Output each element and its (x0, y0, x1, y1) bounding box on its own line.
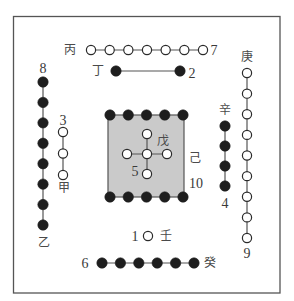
yang-dot (180, 45, 189, 54)
yang-dot (124, 45, 133, 54)
stem-label-ji: 己 (189, 151, 201, 165)
stem-label-jia: 甲 (58, 181, 70, 195)
yang-dot (142, 129, 151, 138)
yang-dot (198, 45, 207, 54)
yang-dot (242, 213, 251, 222)
number-label-5: 5 (132, 164, 139, 179)
number-label-2: 2 (189, 66, 196, 81)
yin-dot (141, 192, 151, 202)
yin-dot (152, 258, 162, 268)
yin-dot (115, 258, 125, 268)
yin-dot (160, 110, 170, 120)
yang-dot (162, 149, 171, 158)
yin-dot (170, 258, 180, 268)
yin-dot (123, 192, 133, 202)
yin-dot (189, 258, 199, 268)
stem-label-xin: 辛 (219, 103, 231, 117)
yin-dot (38, 118, 48, 128)
yang-dot (86, 45, 95, 54)
yin-dot (141, 110, 151, 120)
yin-dot (105, 192, 115, 202)
yang-dot (105, 45, 114, 54)
yang-dot (242, 192, 251, 201)
yin-dot (220, 181, 230, 191)
yang-dot (242, 130, 251, 139)
yang-dot (58, 149, 67, 158)
yin-dot (220, 161, 230, 171)
yang-dot (242, 233, 251, 242)
yin-dot (134, 258, 144, 268)
number-label-3: 3 (60, 113, 67, 128)
yang-dot (142, 149, 151, 158)
yin-dot (160, 192, 170, 202)
yang-dot (58, 170, 67, 179)
yin-dot (38, 77, 48, 87)
yin-dot (38, 159, 48, 169)
number-label-9: 9 (244, 246, 251, 261)
yang-dot (242, 89, 251, 98)
stem-label-ren: 壬 (160, 229, 172, 243)
yin-dot (38, 97, 48, 107)
yin-dot (38, 138, 48, 148)
number-label-7: 7 (211, 43, 218, 58)
yang-dot (242, 68, 251, 77)
yin-dot (38, 179, 48, 189)
hetu-diagram: 丙 7 丁 2 8 乙 3 甲 庚 9 辛 4 1 壬 6 癸 戊 5 己 10 (0, 0, 294, 301)
yang-dot (242, 172, 251, 181)
number-label-6: 6 (82, 256, 89, 271)
yang-dot (142, 169, 151, 178)
dot-group-left-inner (58, 127, 67, 179)
yin-dot (105, 110, 115, 120)
yin-dot (111, 66, 121, 76)
stem-label-yi: 乙 (38, 236, 50, 250)
yin-dot (220, 121, 230, 131)
yin-dot (123, 110, 133, 120)
yin-dot (178, 110, 188, 120)
yin-dot (38, 199, 48, 209)
number-label-10: 10 (189, 176, 203, 191)
number-label-4: 4 (222, 196, 229, 211)
number-label-1: 1 (132, 229, 139, 244)
stem-label-ding: 丁 (92, 64, 104, 78)
stem-label-gui: 癸 (204, 256, 216, 270)
dot-group-right-outer (242, 68, 251, 242)
yin-dot (178, 192, 188, 202)
yang-dot (242, 151, 251, 160)
number-label-8: 8 (40, 61, 47, 76)
yang-dot (122, 149, 131, 158)
yang-dot (161, 45, 170, 54)
yang-dot (142, 45, 151, 54)
stem-label-geng: 庚 (241, 49, 253, 64)
yang-dot (242, 110, 251, 119)
stem-label-bing: 丙 (64, 43, 76, 57)
yin-dot (175, 66, 185, 76)
yang-dot (58, 127, 67, 136)
stem-label-wu: 戊 (157, 134, 169, 148)
yang-dot (143, 231, 152, 240)
dot-group-bottom-inner (143, 231, 152, 240)
yin-dot (97, 258, 107, 268)
yin-dot (220, 141, 230, 151)
yin-dot (38, 220, 48, 230)
